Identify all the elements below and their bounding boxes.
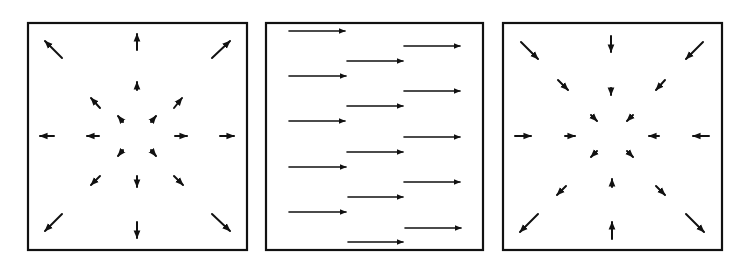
vector-arrow-icon — [212, 214, 230, 231]
vector-arrow-icon — [151, 150, 156, 156]
vector-arrow-icon — [656, 186, 665, 195]
vector-arrow-icon — [118, 150, 123, 156]
vector-arrow-icon — [520, 214, 538, 232]
vector-arrow-icon — [557, 186, 566, 195]
panel-uniform — [266, 23, 483, 250]
vector-arrow-icon — [591, 115, 597, 121]
vector-arrow-icon — [151, 116, 156, 122]
vector-arrow-icon — [558, 80, 568, 90]
vector-arrow-icon — [174, 176, 183, 185]
vector-arrow-icon — [118, 116, 123, 122]
vector-arrow-icon — [91, 176, 100, 185]
vector-arrow-icon — [627, 115, 633, 121]
panel-sink — [503, 23, 722, 250]
vector-arrow-icon — [174, 98, 182, 108]
vector-arrow-icon — [45, 214, 62, 231]
vector-arrow-icon — [212, 41, 230, 58]
vector-arrow-icon — [686, 42, 703, 59]
vector-arrow-icon — [656, 80, 665, 90]
vector-arrow-icon — [627, 151, 633, 157]
vector-arrow-icon — [521, 42, 538, 59]
vector-arrow-icon — [591, 151, 597, 157]
vector-field-canvas — [0, 0, 748, 265]
vector-arrow-icon — [91, 98, 100, 108]
panel-source — [28, 23, 247, 250]
vector-arrow-icon — [45, 41, 62, 58]
vector-field-figure — [0, 0, 748, 265]
vector-arrow-icon — [686, 214, 704, 232]
